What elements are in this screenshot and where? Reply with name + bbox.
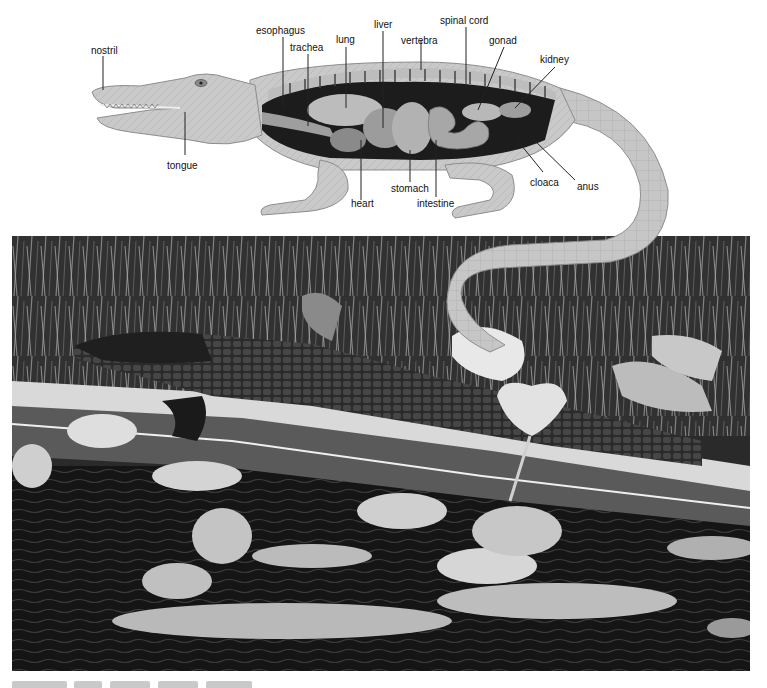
label-cloaca: cloaca [530,177,559,189]
esophagus-trachea [262,112,335,138]
label-nostril: nostril [91,45,118,57]
label-spinal-cord: spinal cord [440,15,488,27]
kidney-shape [499,102,531,118]
label-gonad: gonad [489,35,517,47]
label-esophagus: esophagus [256,25,305,37]
hind-leg [445,163,514,218]
figure-caption-cropped [12,676,752,688]
label-stomach: stomach [391,183,429,195]
label-trachea: trachea [290,42,323,54]
label-lung: lung [336,34,355,46]
label-heart: heart [351,198,374,210]
label-intestine: intestine [417,198,454,210]
label-kidney: kidney [540,54,569,66]
label-liver: liver [374,19,392,31]
body-cavity [262,82,555,160]
photo-scene [12,236,750,671]
heart-shape [330,128,366,152]
intestine-shape [428,107,489,149]
stomach-shape [392,102,432,154]
lung-shape [307,94,383,126]
alligator-photo [12,236,750,671]
body [250,62,575,170]
figure: nostril esophagus trachea lung liver ver… [0,0,767,688]
front-leg [261,160,348,215]
gonad-shape [462,103,502,121]
label-anus: anus [577,181,599,193]
label-vertebra: vertebra [401,35,438,47]
head [92,74,262,144]
label-tongue: tongue [167,160,198,172]
leader-lines [103,27,575,200]
liver-shape [363,108,407,148]
